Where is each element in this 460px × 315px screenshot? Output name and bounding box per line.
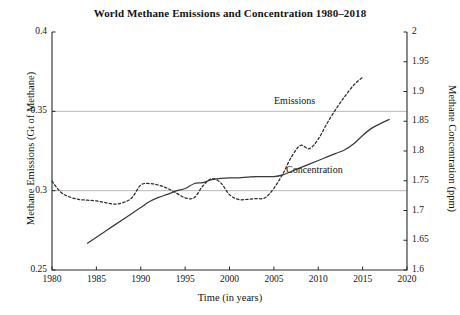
series-line-concentration: [88, 119, 390, 243]
axis-ticks: [52, 32, 407, 270]
x-tick-label: 2010: [296, 274, 340, 284]
y-tick-label-left: 0.4: [4, 26, 47, 36]
x-tick-label: 2005: [252, 274, 296, 284]
y-tick-label-right: 1.6: [412, 264, 452, 274]
y-tick-label-left: 0.3: [4, 185, 47, 195]
x-tick-label: 2020: [385, 274, 429, 284]
y-axis-left-label: Methane Emissions (Gt of Methane): [25, 49, 36, 249]
plot-area: [0, 0, 460, 315]
x-axis-label: Time (in years): [0, 292, 460, 303]
x-tick-label: 2015: [341, 274, 385, 284]
y-tick-label-left: 0.25: [4, 264, 47, 274]
y-tick-label-right: 1.95: [412, 56, 452, 66]
series-line-emissions: [52, 77, 363, 204]
y-tick-label-right: 1.7: [412, 205, 452, 215]
methane-chart-figure: World Methane Emissions and Concentratio…: [0, 0, 460, 315]
y-tick-label-right: 1.65: [412, 234, 452, 244]
y-tick-label-right: 1.8: [412, 145, 452, 155]
series-annotation-concentration: Concentration: [286, 164, 343, 175]
y-tick-label-right: 2: [412, 26, 452, 36]
y-tick-label-left: 0.35: [4, 105, 47, 115]
x-tick-label: 1980: [30, 274, 74, 284]
series-annotation-emissions: Emissions: [274, 95, 315, 106]
x-tick-label: 2000: [208, 274, 252, 284]
x-tick-label: 1990: [119, 274, 163, 284]
y-tick-label-right: 1.75: [412, 175, 452, 185]
chart-title: World Methane Emissions and Concentratio…: [0, 7, 460, 19]
axes-frame: [52, 32, 407, 270]
y-tick-label-right: 1.85: [412, 115, 452, 125]
y-tick-label-right: 1.9: [412, 86, 452, 96]
x-tick-label: 1995: [163, 274, 207, 284]
x-tick-label: 1985: [74, 274, 118, 284]
gridlines: [52, 111, 407, 190]
